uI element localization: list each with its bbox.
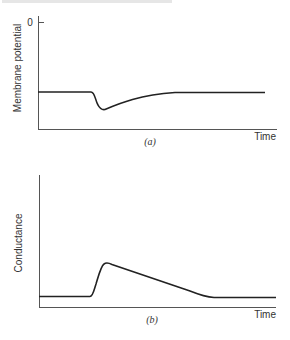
x-axis-label-a: Time	[254, 131, 276, 142]
caption-b: (b)	[146, 314, 158, 326]
x-axis-label-b: Time	[254, 309, 276, 320]
panel-a: 0 Membrane potential Time (a)	[12, 16, 277, 148]
y-axis-label-b: Conductance	[13, 213, 24, 272]
panel-b: Conductance Time (b)	[13, 175, 276, 326]
y-axis-label-a: Membrane potential	[12, 24, 23, 112]
caption-a: (a)	[144, 136, 156, 148]
zero-tick-label: 0	[27, 17, 33, 28]
conductance-curve	[39, 263, 276, 297]
figure: 0 Membrane potential Time (a) Conductanc…	[0, 0, 290, 340]
membrane-potential-curve	[38, 92, 265, 110]
